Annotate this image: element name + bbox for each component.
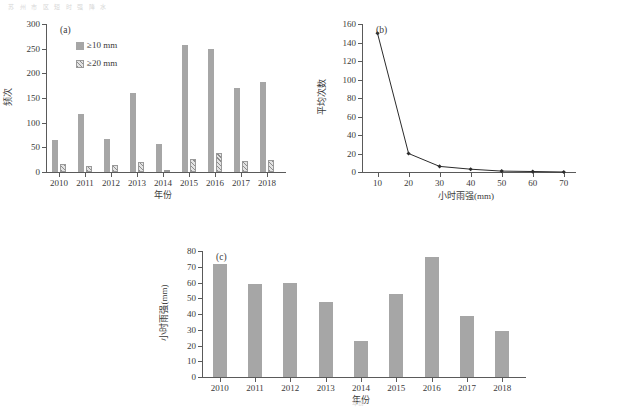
panel-tag-c: (c) [216,253,227,263]
legend-item-1: ≥10 mm [76,41,117,50]
data-point-70 [562,170,566,174]
x-tick-label: 2012 [274,384,306,393]
bar-a-2015-2 [190,159,197,172]
x-tick-label: 2018 [251,179,283,188]
legend-label-2: ≥20 mm [87,59,117,68]
bar-a-2017-1 [234,88,241,172]
x-tick [241,173,242,177]
x-tick-label: 2011 [239,384,271,393]
y-tick-label: 50 [6,143,40,152]
bar-a-2016-2 [216,153,223,172]
x-tick [396,378,397,382]
y-tick-label: 300 [6,20,40,29]
x-axis-line [46,172,286,173]
legend-swatch-1 [76,42,84,50]
bar-a-2015-1 [182,45,189,172]
x-axis-title: 年份 [133,191,193,200]
legend-label-1: ≥10 mm [87,41,117,50]
data-point-30 [438,164,442,168]
y-tick-label: 80 [162,247,196,256]
x-tick-label: 2013 [310,384,342,393]
legend-a: ≥10 mm≥20 mm [76,41,117,77]
bar-a-2017-2 [242,161,249,172]
y-tick [198,377,202,378]
y-tick-label: 10 [162,357,196,366]
bar-a-2018-1 [260,82,267,172]
x-tick [255,378,256,382]
x-tick [85,173,86,177]
bar-c-2010-1 [213,264,227,377]
bar-a-2012-1 [104,139,111,172]
top-cropped-caption: 苏 州 市 区 短 时 强 降 水 [8,2,108,11]
data-point-40 [469,167,473,171]
x-tick-label: 2015 [380,384,412,393]
line-path [378,33,564,172]
chart-panel-a: 0501001502002503002010201120122013201420… [0,14,310,209]
x-tick [326,378,327,382]
x-tick [215,173,216,177]
x-tick [189,173,190,177]
data-point-20 [406,151,410,155]
x-tick [432,378,433,382]
plot-area-c [202,251,520,377]
bar-c-2011-1 [248,284,262,377]
x-tick-label: 2016 [416,384,448,393]
x-tick [163,173,164,177]
y-axis-title: 频次 [4,52,13,142]
x-axis-line [202,377,526,378]
x-tick [220,378,221,382]
panel-tag-b: (b) [376,26,387,36]
x-tick [467,378,468,382]
x-tick-label: 2010 [204,384,236,393]
x-tick [59,173,60,177]
bar-a-2013-1 [130,93,137,172]
bar-c-2016-1 [425,257,439,377]
bottom-cropped-axis-title: 年份 [352,398,364,407]
chart-panel-b: 02040608010012014016010203040506070小时雨强(… [310,14,617,209]
panel-tag-a: (a) [60,26,71,36]
legend-swatch-2 [76,60,84,68]
x-axis-title: 小时雨强(mm) [416,192,516,201]
chart-panel-c: 0102030405060708020102011201220132014201… [150,243,550,405]
y-tick-label: 0 [162,373,196,382]
bar-a-2012-2 [112,165,119,172]
bar-c-2017-1 [460,316,474,377]
bar-c-2013-1 [319,302,333,377]
y-axis-title: 平均次数 [318,52,327,142]
bar-a-2013-2 [138,162,145,172]
x-tick [137,173,138,177]
x-tick [502,378,503,382]
bar-a-2014-1 [156,144,163,172]
line-series-plot [310,14,617,209]
bar-c-2014-1 [354,341,368,377]
bar-a-2011-1 [78,114,85,172]
x-tick-label: 2017 [451,384,483,393]
bar-c-2018-1 [495,331,509,378]
y-tick-label: 0 [6,168,40,177]
data-point-50 [500,169,504,173]
x-tick-label: 2018 [486,384,518,393]
bar-a-2010-1 [52,140,59,172]
bar-a-2010-2 [60,164,67,172]
x-tick [361,378,362,382]
y-axis-title: 小时雨强(mm) [160,268,169,358]
y-tick [42,172,46,173]
x-tick [290,378,291,382]
bar-c-2012-1 [283,283,297,378]
legend-item-2: ≥20 mm [76,59,117,68]
data-point-60 [531,169,535,173]
x-tick [111,173,112,177]
bar-a-2011-2 [86,166,93,172]
x-tick-label: 2014 [345,384,377,393]
x-tick [267,173,268,177]
bar-a-2018-2 [268,160,275,172]
bar-c-2015-1 [389,294,403,378]
bar-a-2014-2 [164,170,171,172]
bar-a-2016-1 [208,49,215,172]
